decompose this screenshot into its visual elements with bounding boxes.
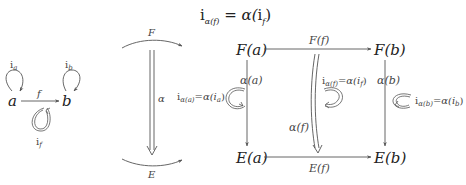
functor-F-label: F xyxy=(147,27,156,38)
functor-E-arrow xyxy=(122,159,182,166)
object-a: a xyxy=(8,92,17,110)
arrow-alpha-a-label: α(a) xyxy=(240,74,263,87)
svg-text:iα(f) = α(if): iα(f) = α(if) xyxy=(200,6,271,26)
identity-alpha-f-label: iα(f)=α(if) xyxy=(322,75,367,88)
title-equation: iα(f) = α(if) xyxy=(200,6,271,26)
diagram-canvas: iα(f) = α(if) ia ib a b f if F E xyxy=(0,0,466,185)
title-eq: = xyxy=(219,6,241,24)
arrow-f-label: f xyxy=(36,88,43,99)
loop-b-label: ib xyxy=(65,59,73,72)
left-category-diagram: ia ib a b f if xyxy=(6,59,80,149)
alpha-arrowhead xyxy=(147,146,157,155)
alpha-label: α xyxy=(158,93,165,104)
arrow-alpha-b-label: α(b) xyxy=(377,74,400,87)
alpha-f-line-2 xyxy=(315,54,319,148)
title-rhs-func: α( xyxy=(242,6,259,24)
identity-alpha-a-label: iα(a)=α(ia) xyxy=(177,91,225,104)
arrow-Ff-label: F(f) xyxy=(308,34,329,47)
identity-2cell-alpha-a xyxy=(226,88,245,109)
title-rhs-close: ) xyxy=(265,6,271,24)
functor-E-label: E xyxy=(147,169,156,180)
identity-2cell-loop-f xyxy=(32,108,50,131)
functor-F-arrow xyxy=(122,40,182,48)
arrow-Ef-label: E(f) xyxy=(308,162,330,175)
object-Fa: F(a) xyxy=(235,41,267,59)
naturality-square: F(a) F(b) E(a) E(b) F(f) E(f) α(a) α(b) … xyxy=(177,34,464,175)
object-Fb: F(b) xyxy=(373,41,406,59)
identity-alpha-b-label: iα(b)=α(ib) xyxy=(415,95,464,108)
loop-f-label: if xyxy=(36,136,43,149)
functor-transformation-diagram: F E α xyxy=(122,27,182,180)
identity-loop-a xyxy=(6,70,23,91)
alpha-f-line-1 xyxy=(311,54,315,148)
identity-2cell-alpha-b xyxy=(393,94,411,108)
object-Ea: E(a) xyxy=(235,149,268,167)
arrow-alpha-f-label: α(f) xyxy=(289,121,309,134)
title-lhs-sub: α(f) xyxy=(205,17,220,26)
identity-loop-b xyxy=(63,70,80,91)
object-b: b xyxy=(62,92,72,110)
object-Eb: E(b) xyxy=(373,149,406,167)
identity-2cell-alpha-f xyxy=(324,88,342,108)
